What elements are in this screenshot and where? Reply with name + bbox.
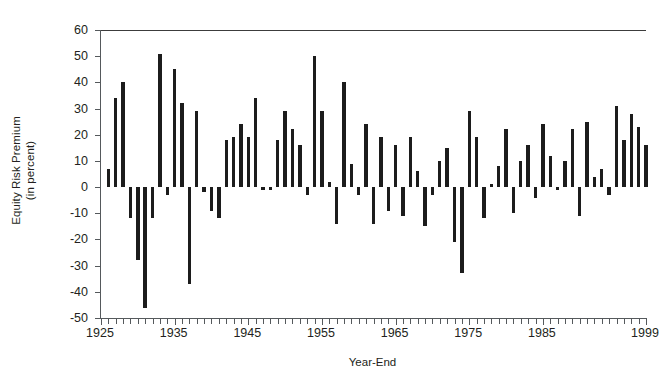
bar [195, 111, 198, 187]
x-axis-minor-tick [211, 318, 212, 324]
bar [526, 145, 529, 187]
x-axis-tick-label: 1945 [233, 326, 261, 340]
bar [607, 187, 610, 195]
bar [438, 161, 441, 187]
x-axis-major-tick [248, 318, 249, 325]
y-axis-tick-label: 40 [74, 75, 88, 89]
y-axis-tick-label: -10 [70, 206, 88, 220]
x-axis-minor-tick [374, 318, 375, 324]
x-axis-major-tick [322, 318, 323, 325]
x-axis-minor-tick [241, 318, 242, 324]
y-axis-tick [95, 56, 101, 57]
bar [445, 148, 448, 187]
bar [173, 69, 176, 187]
y-axis-tick [95, 239, 101, 240]
zero-baseline [101, 30, 646, 31]
bar [202, 187, 205, 192]
bar [129, 187, 132, 218]
x-axis-minor-tick [351, 318, 352, 324]
y-axis-tick-label: -50 [70, 311, 88, 325]
bar [225, 140, 228, 187]
x-axis-minor-tick [594, 318, 595, 324]
x-axis-minor-tick [624, 318, 625, 324]
bar [379, 137, 382, 187]
bar [556, 187, 559, 190]
bar [217, 187, 220, 218]
equity-risk-premium-chart: Equity Risk Premium (in percent) 6050403… [0, 0, 670, 390]
bar [475, 137, 478, 187]
x-axis-major-tick [175, 318, 176, 325]
x-axis-minor-tick [226, 318, 227, 324]
bar [188, 187, 191, 284]
y-axis-tick [95, 292, 101, 293]
x-axis-minor-tick [536, 318, 537, 324]
bar [210, 187, 213, 211]
x-axis-minor-tick [145, 318, 146, 324]
x-axis-minor-tick [116, 318, 117, 324]
bar [320, 111, 323, 187]
bar [114, 98, 117, 187]
x-axis-minor-tick [587, 318, 588, 324]
x-axis-minor-tick [513, 318, 514, 324]
bar [497, 166, 500, 187]
bar [107, 169, 110, 187]
x-axis-minor-tick [153, 318, 154, 324]
bar [180, 103, 183, 187]
bar [276, 140, 279, 187]
bar [136, 187, 139, 260]
y-axis-tick [95, 135, 101, 136]
x-axis-minor-tick [639, 318, 640, 324]
bar [409, 137, 412, 187]
x-axis-minor-tick [256, 318, 257, 324]
y-axis-tick [95, 161, 101, 162]
bar [328, 182, 331, 187]
bar [357, 187, 360, 195]
x-axis-minor-tick [108, 318, 109, 324]
bar [239, 124, 242, 187]
x-axis-minor-tick [381, 318, 382, 324]
bar [298, 145, 301, 187]
x-axis-tick-label: 1935 [160, 326, 188, 340]
x-axis-minor-tick [138, 318, 139, 324]
x-axis-minor-tick [130, 318, 131, 324]
x-axis-minor-tick [344, 318, 345, 324]
x-axis-minor-tick [329, 318, 330, 324]
bar [394, 145, 397, 187]
x-axis-minor-tick [617, 318, 618, 324]
bar [504, 129, 507, 187]
bar [482, 187, 485, 218]
y-axis-tick [95, 109, 101, 110]
x-axis-minor-tick [337, 318, 338, 324]
x-axis-minor-tick [219, 318, 220, 324]
bar [342, 82, 345, 187]
bar [512, 187, 515, 213]
bar [232, 137, 235, 187]
bar [519, 161, 522, 187]
x-axis-minor-tick [506, 318, 507, 324]
x-axis-minor-tick [410, 318, 411, 324]
bar [151, 187, 154, 218]
x-axis-minor-tick [278, 318, 279, 324]
bar [269, 187, 272, 190]
y-axis-tick-label: 10 [74, 154, 88, 168]
y-axis-tick-label: -30 [70, 259, 88, 273]
bar [166, 187, 169, 195]
x-axis-minor-tick [550, 318, 551, 324]
bar [468, 111, 471, 187]
x-axis-tick-label: 1925 [86, 326, 114, 340]
x-axis-minor-tick [432, 318, 433, 324]
bar [387, 187, 390, 211]
bar [541, 124, 544, 187]
bar [254, 98, 257, 187]
x-axis-minor-tick [197, 318, 198, 324]
x-axis-minor-tick [189, 318, 190, 324]
x-axis-minor-tick [388, 318, 389, 324]
x-axis-minor-tick [572, 318, 573, 324]
y-axis-tick-label: 0 [81, 180, 88, 194]
x-axis-minor-tick [580, 318, 581, 324]
x-axis-minor-tick [204, 318, 205, 324]
bar [247, 137, 250, 187]
x-axis-minor-tick [455, 318, 456, 324]
x-axis-minor-tick [558, 318, 559, 324]
x-axis-minor-tick [160, 318, 161, 324]
